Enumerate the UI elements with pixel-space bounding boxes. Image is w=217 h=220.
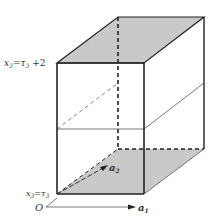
parallelepiped-diagram: x3=τ3 +2 x3=τ3 O a1 a2 — [0, 0, 217, 220]
bottom-face — [57, 149, 204, 194]
mid-plane-back-left — [57, 83, 118, 129]
label-bottom-plane: x3=τ3 — [26, 189, 49, 199]
top-face — [57, 17, 204, 63]
label-origin: O — [35, 202, 43, 213]
origin-to-box-line — [46, 198, 57, 207]
a1-arrowhead — [128, 205, 136, 210]
label-a1: a1 — [138, 202, 149, 214]
label-top-plane: x3=τ3 +2 — [4, 58, 45, 69]
mid-plane-right — [144, 83, 204, 129]
